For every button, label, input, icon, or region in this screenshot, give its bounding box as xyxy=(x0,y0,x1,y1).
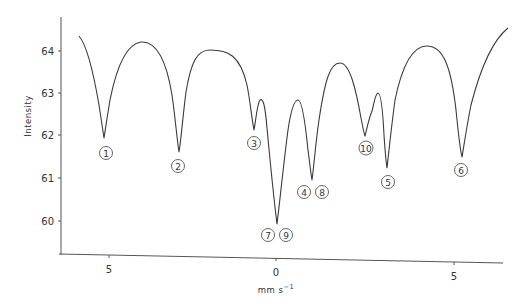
svg-text:7: 7 xyxy=(265,231,271,241)
svg-text:2: 2 xyxy=(175,162,181,172)
svg-text:6: 6 xyxy=(458,166,464,176)
peak-label-4: 4 xyxy=(298,186,311,199)
y-tick-label: 61 xyxy=(41,173,54,184)
peak-label-6: 6 xyxy=(455,164,468,177)
peak-label-5: 5 xyxy=(382,176,395,189)
y-axis: 64 63 62 61 60 Intensity xyxy=(23,17,61,255)
y-tick-label: 63 xyxy=(41,88,54,99)
svg-text:8: 8 xyxy=(319,188,325,198)
peak-label-7: 7 xyxy=(262,229,275,242)
x-tick-label: 5 xyxy=(451,271,457,282)
svg-text:4: 4 xyxy=(301,188,307,198)
peak-label-2: 2 xyxy=(172,160,185,173)
svg-text:1: 1 xyxy=(103,149,109,159)
peak-label-8: 8 xyxy=(316,186,329,199)
peak-labels: 1 2 3 4 8 7 9 10 xyxy=(100,137,468,242)
spectrum-line xyxy=(79,28,508,224)
y-tick-label: 64 xyxy=(41,46,54,57)
peak-label-1: 1 xyxy=(100,147,113,160)
svg-text:9: 9 xyxy=(283,231,289,241)
svg-text:3: 3 xyxy=(251,139,257,149)
y-tick-label: 62 xyxy=(41,130,54,141)
svg-text:10: 10 xyxy=(360,144,372,154)
mossbauer-spectrum-chart: 64 63 62 61 60 Intensity 5 0 5 mm s−1 1 … xyxy=(0,0,532,306)
y-tick-label: 60 xyxy=(41,216,54,227)
peak-label-10: 10 xyxy=(359,141,373,155)
x-tick-label: 5 xyxy=(106,264,112,275)
x-tick-label: 0 xyxy=(273,267,279,278)
x-axis-title: mm s−1 xyxy=(258,283,294,295)
peak-label-3: 3 xyxy=(248,137,261,150)
peak-label-9: 9 xyxy=(280,229,293,242)
y-axis-title: Intensity xyxy=(23,95,33,137)
x-axis: 5 0 5 mm s−1 xyxy=(59,254,503,295)
svg-text:5: 5 xyxy=(385,178,391,188)
